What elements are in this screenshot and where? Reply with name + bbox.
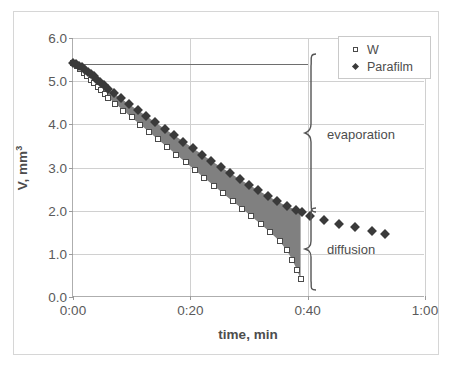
- legend-label-parafilm: Parafilm: [367, 60, 413, 74]
- data-point-w: [192, 167, 198, 173]
- data-point-w: [146, 129, 152, 135]
- legend-item-parafilm: Parafilm: [348, 58, 430, 75]
- y-axis-title: V, mm3: [14, 146, 31, 190]
- x-axis-tick-label: 0:00: [60, 303, 86, 318]
- data-point-w: [155, 136, 161, 142]
- x-axis-title: time, min: [218, 327, 277, 342]
- data-point-w: [294, 267, 300, 273]
- y-axis-tick-label: 6.0: [48, 31, 67, 46]
- x-axis-tick-label: 1:00: [412, 303, 438, 318]
- x-axis-tick-mark: [190, 296, 191, 300]
- filled-diamond-icon: [348, 64, 362, 69]
- brace-evaporation-icon: [303, 52, 321, 214]
- data-point-w: [284, 247, 290, 253]
- y-axis-tick-label: 1.0: [48, 246, 67, 261]
- data-point-w: [120, 108, 126, 114]
- x-axis-tick-mark: [425, 296, 426, 300]
- data-point-w: [211, 183, 217, 189]
- data-point-w: [183, 159, 189, 165]
- legend-label-w: W: [367, 43, 379, 57]
- data-point-w: [258, 221, 264, 227]
- y-axis-title-exponent: 3: [14, 146, 24, 151]
- x-axis-tick-mark: [73, 296, 74, 300]
- annotation-label-diffusion: diffusion: [327, 242, 375, 257]
- data-point-w: [137, 122, 143, 128]
- x-axis-tick-label: 0:20: [177, 303, 203, 318]
- y-axis-tick-label: 5.0: [48, 74, 67, 89]
- y-axis-tick-label: 2.0: [48, 203, 67, 218]
- data-point-w: [129, 114, 135, 120]
- y-axis-tick-label: 4.0: [48, 117, 67, 132]
- data-point-w: [164, 144, 170, 150]
- reference-line-initial-volume: [82, 64, 308, 66]
- data-point-w: [248, 213, 254, 219]
- data-point-w: [239, 206, 245, 212]
- brace-diffusion-icon: [303, 206, 321, 292]
- chart-legend: W Parafilm: [338, 36, 431, 79]
- data-point-w: [105, 95, 111, 101]
- legend-item-w: W: [348, 41, 430, 58]
- x-axis-tick-mark: [308, 296, 309, 300]
- data-point-w: [173, 152, 179, 158]
- data-point-w: [267, 229, 273, 235]
- data-point-w: [201, 175, 207, 181]
- annotation-label-evaporation: evaporation: [327, 127, 395, 142]
- y-axis-tick-label: 3.0: [48, 160, 67, 175]
- data-point-w: [277, 238, 283, 244]
- data-point-w: [112, 101, 118, 107]
- x-axis-tick-label: 0:40: [295, 303, 321, 318]
- open-square-icon: [348, 47, 362, 52]
- y-axis-title-text: V, mm: [15, 151, 30, 190]
- data-point-w: [230, 198, 236, 204]
- data-point-w: [220, 190, 226, 196]
- chart-figure: V, mm3 time, min 0.01.02.03.04.05.06.0 0…: [0, 0, 458, 379]
- data-point-w: [289, 257, 295, 263]
